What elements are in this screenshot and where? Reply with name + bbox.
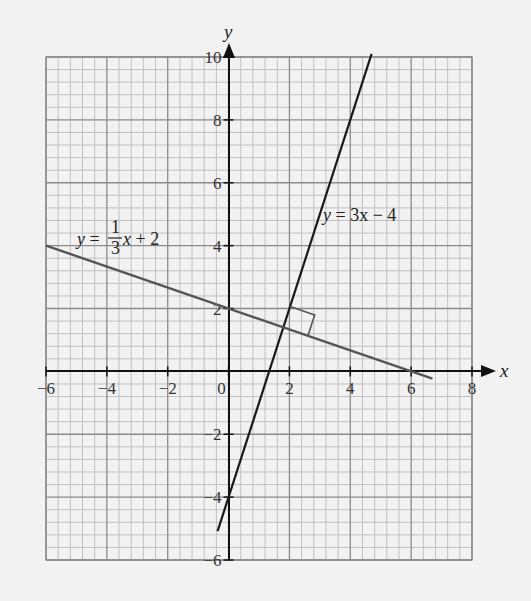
y-tick-label: −6 — [203, 551, 221, 570]
x-tick-label: 4 — [346, 379, 355, 398]
svg-text:x + 2: x + 2 — [122, 229, 159, 249]
svg-text:3: 3 — [111, 238, 120, 258]
svg-text:1: 1 — [111, 217, 120, 237]
x-tick-label: −6 — [37, 379, 55, 398]
label-line-third-x-plus-2: y = 1 3 x + 2 — [75, 217, 159, 258]
y-tick-label: 10 — [205, 48, 222, 67]
y-tick-label: −4 — [203, 488, 222, 507]
x-axis-label: x — [499, 360, 509, 381]
y-tick-label: 8 — [213, 111, 222, 130]
y-tick-label: −2 — [203, 425, 221, 444]
svg-text:y =: y = — [75, 229, 100, 249]
y-axis-arrow-icon — [223, 43, 235, 58]
x-tick-label: 2 — [285, 379, 294, 398]
x-axis-arrow-icon — [481, 365, 496, 377]
x-tick-label: −2 — [159, 379, 177, 398]
y-tick-label: 6 — [213, 174, 222, 193]
y-axis-label: y — [222, 21, 233, 42]
x-tick-label: 0 — [217, 379, 226, 398]
x-tick-label: 6 — [407, 379, 416, 398]
label-line-3x-minus-4: y = 3x − 4 — [321, 205, 396, 225]
x-tick-label: 8 — [468, 379, 477, 398]
coordinate-graph: x y −6−4−202468−6−4−2246810 y = 3x − 4 y… — [0, 0, 531, 601]
x-tick-label: −4 — [98, 379, 117, 398]
y-tick-label: 4 — [213, 237, 222, 256]
